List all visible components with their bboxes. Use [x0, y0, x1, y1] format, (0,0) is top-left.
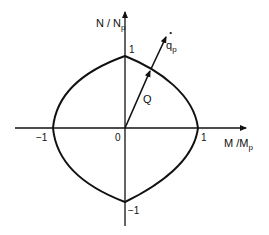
- flow-vector-label: qp: [166, 39, 177, 54]
- tick-bottom: −1: [128, 205, 140, 216]
- x-axis-label: M /Mp: [224, 137, 253, 152]
- load-vector-label: Q: [143, 93, 152, 105]
- tick-top: 1: [129, 44, 135, 55]
- tick-origin: 0: [115, 132, 121, 143]
- tick-left: −1: [36, 132, 48, 143]
- flow-vector-dot: ·: [169, 26, 173, 40]
- flow-vector-qp: [151, 37, 166, 69]
- yield-surface-diagram: N / Np M /Mp 1 −1 −1 1 0 Q · qp: [0, 0, 269, 235]
- y-axis-label: N / Np: [96, 17, 126, 32]
- tick-right: 1: [201, 132, 207, 143]
